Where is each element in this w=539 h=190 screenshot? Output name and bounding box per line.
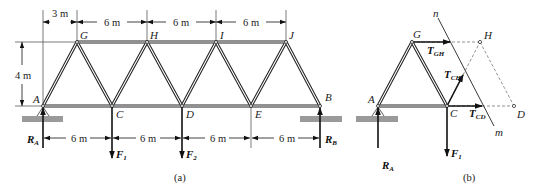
cut-label-m: m xyxy=(495,126,503,138)
node-label-c: C xyxy=(116,108,124,120)
node-label-e: E xyxy=(254,108,262,120)
dim-height: 4 m xyxy=(15,70,31,81)
dim-bottom-4: 6 m xyxy=(279,133,295,144)
node-label-d: D xyxy=(185,108,194,120)
dim-bottom-2: 6 m xyxy=(140,133,156,144)
force-label-tcd: TCD xyxy=(469,107,485,121)
reaction-label-ra: RA xyxy=(26,133,39,147)
support-b xyxy=(300,116,342,122)
part-a: 3 m 6 m 6 m 6 m 4 m xyxy=(15,8,342,184)
fbd-external-arrows xyxy=(378,107,447,156)
fbd-node-label-g: G xyxy=(413,28,421,40)
dim-top-2: 6 m xyxy=(104,17,120,28)
cut-label-n: n xyxy=(433,7,439,19)
node-label-b: B xyxy=(325,91,332,103)
part-b: n m TGH TCH TCD A G H C D RA F1 (b) xyxy=(356,7,525,184)
dim-bottom-1: 6 m xyxy=(71,133,87,144)
fbd-node-label-a: A xyxy=(367,93,375,105)
fbd-node-label-d: D xyxy=(516,108,525,120)
dim-bottom-3: 6 m xyxy=(210,133,226,144)
support-a-fbd xyxy=(356,107,398,122)
dim-top-1: 3 m xyxy=(52,8,68,19)
load-label-f2: F2 xyxy=(185,148,197,162)
reaction-label-rb: RB xyxy=(324,133,337,147)
fbd-reaction-label-ra: RA xyxy=(381,159,394,173)
force-label-tch: TCH xyxy=(444,68,461,82)
node-label-j: J xyxy=(289,29,295,41)
truss-members xyxy=(43,42,320,106)
joints xyxy=(42,41,322,108)
force-label-tgh: TGH xyxy=(427,44,445,58)
truss-diagram: 3 m 6 m 6 m 6 m 4 m xyxy=(0,0,539,190)
node-label-a: A xyxy=(32,93,40,105)
fbd-node-label-c: C xyxy=(450,107,458,119)
caption-a: (a) xyxy=(174,172,186,184)
node-label-i: I xyxy=(219,29,225,41)
node-label-h: H xyxy=(149,29,159,41)
node-label-g: G xyxy=(80,29,88,41)
fbd-load-label-f1: F1 xyxy=(450,147,462,161)
dim-top-3: 6 m xyxy=(173,17,189,28)
fbd-node-label-h: H xyxy=(483,29,493,41)
caption-b: (b) xyxy=(463,172,476,184)
dim-top-4: 6 m xyxy=(243,17,259,28)
load-label-f1: F1 xyxy=(115,148,127,162)
